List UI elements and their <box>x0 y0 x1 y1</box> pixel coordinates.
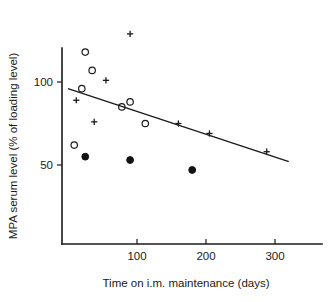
data-point-open-circle <box>127 99 133 105</box>
data-point-filled-circle <box>82 153 89 160</box>
data-point-open-circle <box>89 67 95 73</box>
x-axis-ticks: 100200300 <box>127 239 284 262</box>
x-tick-label: 200 <box>196 250 215 262</box>
series-cross <box>73 31 270 155</box>
y-axis-ticks: 50100 <box>34 76 62 171</box>
data-point-open-circle <box>79 85 85 91</box>
series-open-circle <box>71 49 148 148</box>
y-axis-title: MPA serum level (% of loading level) <box>7 53 19 240</box>
data-point-open-circle <box>142 120 148 126</box>
data-point-open-circle <box>82 49 88 55</box>
figure-container: 50100 100200300 Time on i.m. maintenance… <box>0 0 332 302</box>
data-point-open-circle <box>71 142 77 148</box>
x-axis-title: Time on i.m. maintenance (days) <box>102 277 269 289</box>
y-tick-label: 50 <box>40 159 53 171</box>
x-tick-label: 300 <box>265 250 284 262</box>
series-filled-circle <box>82 153 196 173</box>
x-tick-label: 100 <box>127 250 146 262</box>
y-tick-label: 100 <box>34 76 53 88</box>
data-point-filled-circle <box>127 157 134 164</box>
data-point-filled-circle <box>189 167 196 174</box>
scatter-plot: 50100 100200300 Time on i.m. maintenance… <box>0 0 332 302</box>
